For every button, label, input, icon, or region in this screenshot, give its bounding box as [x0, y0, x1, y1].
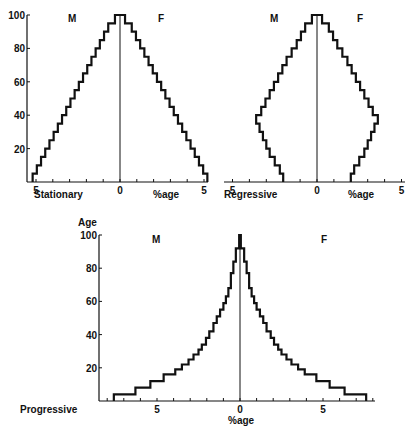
y-tick-label: 60 — [14, 77, 26, 88]
x-tick-label: 5 — [399, 185, 405, 196]
y-tick-label: 80 — [86, 263, 98, 274]
x-tick-label: 5 — [33, 185, 39, 196]
x-tick-label: 5 — [154, 404, 160, 415]
progressive-plot: 50520406080100 — [80, 230, 375, 415]
y-tick-label: 20 — [86, 363, 98, 374]
y-tick-label: 100 — [8, 10, 25, 21]
stationary-female-label: F — [158, 13, 164, 24]
y-tick-label: 40 — [86, 330, 98, 341]
stationary-plot: 50520406080100 — [8, 10, 208, 196]
progressive-pyramid: Progressive Age M F %age 50520406080100 — [20, 217, 375, 426]
stationary-male-label: M — [68, 13, 76, 24]
x-tick-label: 5 — [230, 185, 236, 196]
y-tick-label: 60 — [86, 296, 98, 307]
male-step-outline — [256, 15, 317, 182]
x-tick-label: 0 — [117, 185, 123, 196]
x-tick-label: 0 — [314, 185, 320, 196]
regressive-female-label: F — [357, 13, 363, 24]
x-tick-label: 5 — [320, 404, 326, 415]
male-step-outline — [114, 235, 240, 401]
regressive-pyramid: Regressive M F %age 505 — [224, 13, 405, 200]
female-step-outline — [120, 15, 207, 182]
stationary-title: Stationary — [34, 189, 83, 200]
stationary-xlabel: %age — [153, 189, 180, 200]
progressive-female-label: F — [321, 234, 327, 245]
regressive-plot: 505 — [224, 15, 405, 196]
y-tick-label: 40 — [14, 110, 26, 121]
female-step-outline — [240, 235, 366, 401]
regressive-xlabel: %age — [348, 189, 375, 200]
male-step-outline — [33, 15, 120, 182]
y-tick-label: 80 — [14, 43, 26, 54]
progressive-ylabel: Age — [78, 217, 97, 228]
population-pyramids-figure: Stationary M F %age 50520406080100 Regre… — [0, 0, 410, 429]
progressive-title: Progressive — [20, 404, 78, 415]
y-tick-label: 100 — [80, 230, 97, 241]
female-step-outline — [317, 15, 378, 182]
regressive-male-label: M — [270, 13, 278, 24]
progressive-male-label: M — [152, 234, 160, 245]
x-tick-label: 5 — [201, 185, 207, 196]
y-tick-label: 20 — [14, 144, 26, 155]
stationary-pyramid: Stationary M F %age 50520406080100 — [8, 10, 208, 200]
progressive-xlabel: %age — [228, 415, 255, 426]
x-tick-label: 0 — [237, 404, 243, 415]
